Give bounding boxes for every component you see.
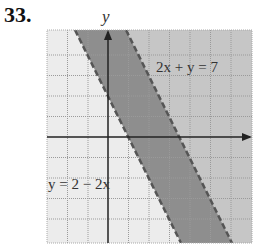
line1-label: 2x + y = 7	[156, 59, 218, 75]
inequality-graph: y 2x + y = 7 y = 2 − 2x	[0, 0, 255, 251]
line2-label: y = 2 − 2x	[48, 176, 110, 192]
y-axis-label: y	[100, 7, 110, 26]
